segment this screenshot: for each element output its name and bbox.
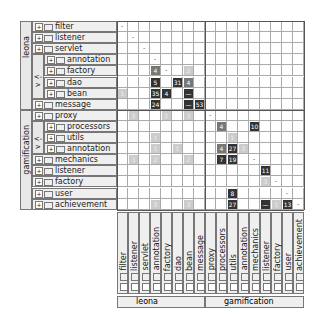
dependency-cell[interactable]: 4 [217,122,226,131]
matrix-cell[interactable] [249,88,260,99]
row-header-filter[interactable]: +filter [32,21,117,32]
dependency-cell[interactable]: 3 [239,144,248,153]
matrix-cell[interactable] [282,143,293,154]
dependency-cell[interactable]: 3 [184,111,193,120]
matrix-cell[interactable] [128,77,139,88]
matrix-cell[interactable] [139,32,150,43]
matrix-cell[interactable] [249,65,260,76]
dependency-cell[interactable]: 11 [261,166,270,175]
matrix-cell[interactable] [271,165,282,176]
row-header-utils[interactable]: +utils [44,132,117,143]
matrix-cell[interactable] [282,32,293,43]
matrix-cell[interactable] [172,199,183,210]
expand-icon[interactable] [252,283,260,291]
matrix-cell[interactable] [128,121,139,132]
matrix-cell[interactable] [194,110,205,121]
row-header-factory[interactable]: +factory [32,176,117,187]
matrix-cell[interactable] [161,199,172,210]
dependency-cell[interactable]: 1 [162,111,171,120]
dependency-cell[interactable]: 4 [162,89,171,98]
column-header-proxy[interactable]: proxy [205,212,216,294]
matrix-cell[interactable] [216,21,227,32]
matrix-cell[interactable] [282,176,293,187]
matrix-cell[interactable] [139,132,150,143]
column-header-user[interactable]: user [282,212,293,294]
matrix-cell[interactable] [183,43,194,54]
matrix-cell[interactable] [216,43,227,54]
matrix-cell[interactable] [271,121,282,132]
matrix-cell[interactable] [271,32,282,43]
matrix-cell[interactable] [128,21,139,32]
matrix-cell[interactable] [260,77,271,88]
matrix-cell[interactable] [282,21,293,32]
matrix-cell[interactable] [128,65,139,76]
matrix-cell[interactable] [271,77,282,88]
matrix-cell[interactable] [227,54,238,65]
matrix-cell[interactable] [216,99,227,110]
dependency-cell[interactable]: 10 [250,122,259,131]
expand-icon[interactable] [296,283,304,291]
dependency-cell[interactable]: 31 [173,78,182,87]
dependency-cell[interactable]: 7 [217,155,226,164]
matrix-cell[interactable] [293,110,304,121]
matrix-cell[interactable] [293,99,304,110]
matrix-cell[interactable] [260,43,271,54]
matrix-cell[interactable] [249,165,260,176]
matrix-cell[interactable] [205,77,216,88]
dependency-cell[interactable]: 5 [151,78,160,87]
column-header-achievement[interactable]: achievement [293,212,304,294]
dependency-cell[interactable]: — [184,100,193,109]
matrix-cell[interactable] [282,77,293,88]
dependency-cell[interactable]: 8 [228,189,237,198]
matrix-cell[interactable] [271,54,282,65]
matrix-cell[interactable] [271,154,282,165]
matrix-cell[interactable] [117,132,128,143]
matrix-cell[interactable] [216,110,227,121]
column-header-listener[interactable]: listener [128,212,139,294]
matrix-cell[interactable] [150,188,161,199]
expand-icon[interactable]: + [35,23,43,31]
matrix-cell[interactable] [172,165,183,176]
matrix-cell[interactable] [260,54,271,65]
matrix-cell[interactable] [249,143,260,154]
matrix-cell[interactable] [260,99,271,110]
expand-icon[interactable] [175,283,183,291]
expand-icon[interactable] [164,283,172,291]
matrix-cell[interactable] [260,110,271,121]
matrix-cell[interactable] [150,121,161,132]
matrix-cell[interactable] [249,199,260,210]
matrix-cell[interactable] [293,188,304,199]
matrix-cell[interactable] [139,21,150,32]
row-header-mechanics[interactable]: +mechanics [32,154,117,165]
matrix-cell[interactable] [117,99,128,110]
matrix-cell[interactable] [238,188,249,199]
matrix-cell[interactable] [271,188,282,199]
matrix-cell[interactable] [117,65,128,76]
matrix-cell[interactable] [238,154,249,165]
row-header-user[interactable]: +user [32,188,117,199]
matrix-cell[interactable] [260,143,271,154]
expand-icon[interactable] [208,283,216,291]
expand-icon[interactable]: + [35,112,43,120]
matrix-cell[interactable] [139,165,150,176]
matrix-cell[interactable] [183,188,194,199]
matrix-cell[interactable] [227,32,238,43]
matrix-cell[interactable] [271,65,282,76]
matrix-cell[interactable] [117,154,128,165]
matrix-cell[interactable] [249,99,260,110]
matrix-cell[interactable] [161,43,172,54]
dependency-cell[interactable]: 1 [272,200,281,209]
matrix-cell[interactable] [238,77,249,88]
matrix-cell[interactable] [172,99,183,110]
matrix-cell[interactable] [194,188,205,199]
matrix-cell[interactable] [172,88,183,99]
dependency-cell[interactable]: 4 [184,78,193,87]
matrix-cell[interactable] [117,199,128,210]
column-header-utils[interactable]: utils [227,212,238,294]
dependency-cell[interactable]: 2 [184,66,193,75]
expand-icon[interactable]: + [35,178,43,186]
expand-icon[interactable]: + [47,90,55,98]
expand-icon[interactable]: + [35,167,43,175]
expand-icon[interactable] [131,283,139,291]
expand-icon[interactable]: + [47,67,55,75]
